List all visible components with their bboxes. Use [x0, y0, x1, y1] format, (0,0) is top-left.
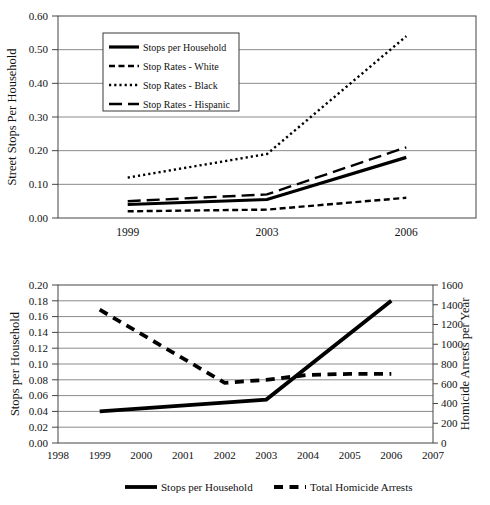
y-axis-title: Street Stops Per Household — [5, 48, 19, 186]
y-tick-label-left: 0.08 — [29, 374, 49, 386]
x-tick-label: 2001 — [172, 449, 194, 461]
y-tick-label: 0.30 — [29, 111, 49, 123]
y-tick-label-left: 0.02 — [29, 421, 48, 433]
x-tick-label: 1999 — [116, 226, 139, 238]
legend-label-stop-rates-black: Stop Rates - Black — [143, 80, 218, 91]
x-tick-label: 1999 — [89, 449, 112, 461]
y-tick-label: 0.50 — [29, 43, 49, 55]
y-tick-label-right: 200 — [441, 417, 458, 429]
figure-page: 0.000.100.200.300.400.500.60199920032006… — [0, 0, 490, 505]
y-tick-label: 0.00 — [29, 212, 49, 224]
y-tick-label-left: 0.06 — [29, 389, 49, 401]
y-tick-label: 0.10 — [29, 178, 49, 190]
y-tick-label-left: 0.00 — [29, 437, 49, 449]
x-tick-label: 2007 — [422, 449, 445, 461]
y-axis-title-left: Stops per Household — [8, 311, 22, 416]
series-stop-rates-hispanic — [128, 147, 407, 201]
legend-label-stop-rates-white: Stop Rates - White — [143, 61, 219, 72]
legend-label-total-homicide-arrests: Total Homicide Arrests — [310, 481, 413, 493]
y-tick-label-right: 0 — [441, 437, 447, 449]
x-tick-label: 2000 — [130, 449, 153, 461]
y-tick-label-left: 0.20 — [29, 279, 49, 291]
bottom-chart-root: 0.000.020.040.060.080.100.120.140.160.18… — [8, 279, 472, 493]
x-tick-label: 2006 — [395, 226, 418, 238]
y-tick-label-left: 0.16 — [29, 310, 49, 322]
x-tick-label: 1998 — [47, 449, 70, 461]
y-tick-label-right: 800 — [441, 358, 458, 370]
stops-vs-homicide-arrests-chart: 0.000.020.040.060.080.100.120.140.160.18… — [0, 258, 490, 505]
y-tick-label-left: 0.10 — [29, 358, 49, 370]
x-tick-label: 2006 — [380, 449, 403, 461]
x-tick-label: 2005 — [339, 449, 362, 461]
y-tick-label: 0.60 — [29, 10, 49, 22]
top-chart-root: 0.000.100.200.300.400.500.60199920032006… — [5, 10, 476, 238]
y-tick-label-left: 0.12 — [29, 342, 48, 354]
y-axis-title-right: Homicide Arrests per Year — [458, 297, 472, 430]
y-tick-label-right: 600 — [441, 378, 458, 390]
legend-label-stops-per-household: Stops per Household — [161, 481, 253, 493]
y-tick-label-right: 1600 — [441, 279, 464, 291]
y-tick-label: 0.40 — [29, 77, 49, 89]
x-tick-label: 2003 — [256, 226, 279, 238]
legend: Stops per HouseholdTotal Homicide Arrest… — [125, 481, 413, 493]
y-tick-label-left: 0.18 — [29, 295, 49, 307]
x-tick-label: 2004 — [297, 449, 320, 461]
x-tick-label: 2003 — [255, 449, 278, 461]
street-stops-per-household-chart: 0.000.100.200.300.400.500.60199920032006… — [0, 0, 490, 258]
legend-label-stop-rates-hispanic: Stop Rates - Hispanic — [143, 99, 230, 110]
series-stops-per-household — [128, 157, 407, 204]
series-stops-per-household — [100, 301, 392, 412]
x-tick-label: 2002 — [214, 449, 236, 461]
legend: Stops per HouseholdStop Rates - WhiteSto… — [103, 33, 239, 111]
y-tick-label-left: 0.14 — [29, 326, 49, 338]
y-tick-label: 0.20 — [29, 144, 49, 156]
y-tick-label-right: 400 — [441, 397, 458, 409]
legend-label-stops-per-household: Stops per Household — [143, 42, 226, 53]
series-total-homicide-arrests — [100, 310, 392, 383]
y-tick-label-left: 0.04 — [29, 405, 49, 417]
